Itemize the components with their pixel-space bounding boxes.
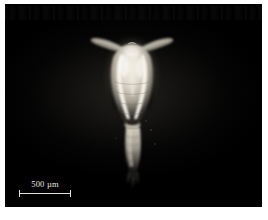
specimen-halo xyxy=(108,40,156,108)
prosome xyxy=(109,42,156,123)
antenna-left xyxy=(91,38,125,53)
field-particulates xyxy=(115,120,155,144)
internal-structure-center xyxy=(127,53,138,96)
scale-bar-label: 500 µm xyxy=(19,179,71,189)
scale-bar-cap-right xyxy=(70,190,71,197)
internal-structure-right xyxy=(134,54,147,119)
copepod-specimen xyxy=(83,26,183,191)
urosome xyxy=(125,128,141,170)
scale-bar-rule xyxy=(19,190,71,197)
internal-structure-left xyxy=(117,54,130,119)
background-noise-strip xyxy=(5,6,262,20)
caudal-setae xyxy=(128,170,138,188)
antenna-right xyxy=(139,38,173,53)
figure-panel: 500 µm xyxy=(5,4,262,207)
scale-bar: 500 µm xyxy=(19,179,71,197)
background-vignette xyxy=(5,4,262,207)
prosome-urosome-joint xyxy=(124,122,141,129)
scale-bar-line xyxy=(19,193,71,194)
